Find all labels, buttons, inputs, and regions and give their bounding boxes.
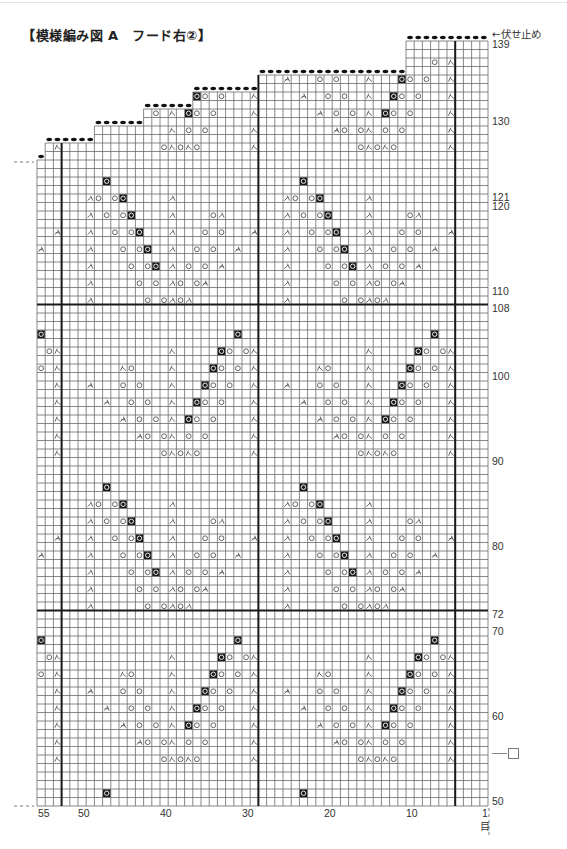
knit-stitch-legend-icon: [508, 748, 519, 759]
stitch-label: 20: [324, 808, 336, 819]
row-label: 60: [492, 711, 504, 722]
row-label: 130: [492, 116, 510, 127]
stitch-label: 40: [160, 808, 172, 819]
knitting-chart-grid: [0, 0, 567, 849]
row-label: 72: [492, 609, 504, 620]
row-label: 120: [492, 201, 510, 212]
row-label: 100: [492, 371, 510, 382]
row-label: 70: [492, 626, 504, 637]
legend-leader-line: [492, 753, 507, 754]
stitch-unit-label: 目: [480, 818, 490, 833]
row-label: 139: [492, 39, 510, 50]
row-label: 80: [492, 541, 504, 552]
row-label: 108: [492, 303, 510, 314]
stitch-label: 50: [78, 808, 90, 819]
row-label: 90: [492, 456, 504, 467]
row-label: 110: [492, 286, 509, 297]
stitch-label: 55: [38, 808, 50, 819]
row-label: 50: [492, 796, 504, 807]
stitch-label: 1: [482, 808, 488, 819]
stitch-label: 30: [242, 808, 254, 819]
stitch-label: 10: [406, 808, 418, 819]
